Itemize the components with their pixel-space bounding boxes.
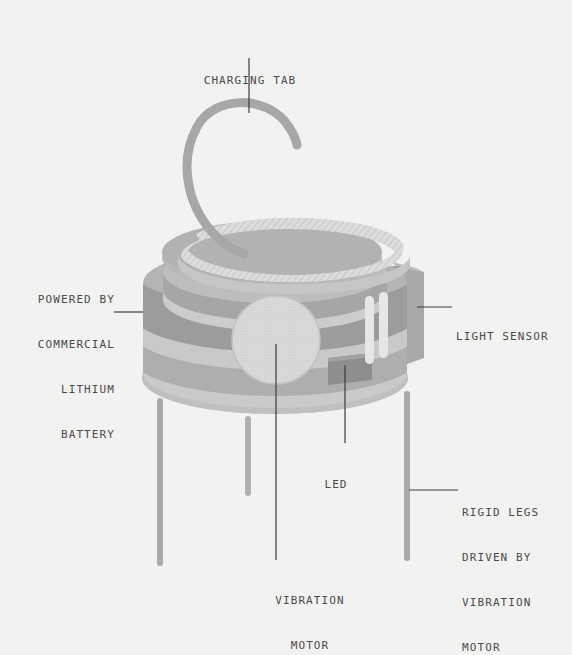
label-rigid-legs-line-3: VIBRATION	[462, 595, 570, 610]
label-vibration-line-1: VIBRATION	[250, 593, 370, 608]
label-battery-line-2: COMMERCIAL	[10, 337, 115, 352]
label-charging-tab: CHARGING TAB	[155, 43, 345, 118]
label-battery-line-3: LITHIUM	[10, 382, 115, 397]
label-vibration-motor: VIBRATION MOTOR	[250, 563, 370, 655]
label-charging-tab-line-1: CHARGING TAB	[155, 73, 345, 88]
label-led-line-1: LED	[306, 477, 366, 492]
label-light-sensor: LIGHT SENSOR	[456, 299, 568, 374]
label-rigid-legs-line-1: RIGID LEGS	[462, 505, 570, 520]
label-battery: POWERED BY COMMERCIAL LITHIUM BATTERY	[10, 262, 115, 472]
leg-back-left	[245, 416, 251, 496]
label-light-sensor-line-1: LIGHT SENSOR	[456, 329, 568, 344]
label-rigid-legs-line-2: DRIVEN BY	[462, 550, 570, 565]
label-led: LED	[306, 447, 366, 522]
label-battery-line-1: POWERED BY	[10, 292, 115, 307]
leg-front-right	[404, 391, 410, 561]
label-rigid-legs: RIGID LEGS DRIVEN BY VIBRATION MOTOR	[462, 475, 570, 655]
label-vibration-line-2: MOTOR	[250, 638, 370, 653]
legs-group-front	[157, 391, 410, 566]
label-rigid-legs-line-4: MOTOR	[462, 640, 570, 655]
legs-group	[245, 416, 251, 496]
leg-front-left	[157, 398, 163, 566]
label-battery-line-4: BATTERY	[10, 427, 115, 442]
